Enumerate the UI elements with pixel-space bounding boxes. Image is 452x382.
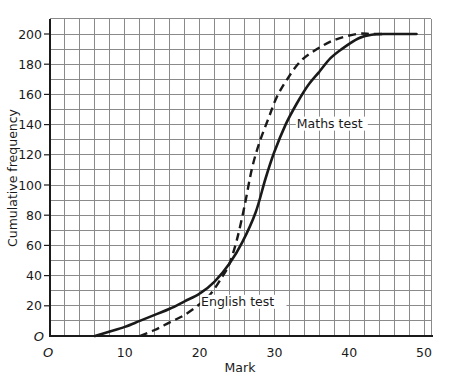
y-tick-label: 160 xyxy=(18,87,42,102)
x-tick-label: 30 xyxy=(266,345,282,360)
x-axis-title: Mark xyxy=(225,360,257,375)
maths-test-label: Maths test xyxy=(297,116,363,131)
axes xyxy=(49,19,433,337)
y-origin-label: O xyxy=(34,329,44,344)
y-tick-label: 80 xyxy=(26,208,42,223)
curve-labels: Maths test English test xyxy=(200,116,368,309)
y-tick-label: 120 xyxy=(18,147,42,162)
cumulative-frequency-chart: 204060801001201401601802001020304050 Mat… xyxy=(0,0,452,382)
x-origin-label: O xyxy=(43,345,53,360)
y-tick-label: 40 xyxy=(26,268,42,283)
y-tick-label: 100 xyxy=(18,178,42,193)
y-tick-label: 180 xyxy=(18,57,42,72)
x-tick-label: 40 xyxy=(341,345,357,360)
english-test-label: English test xyxy=(201,294,274,309)
grid xyxy=(50,19,431,336)
y-axis-title: Cumulative frequency xyxy=(5,108,20,247)
y-tick-label: 60 xyxy=(26,238,42,253)
y-tick-label: 20 xyxy=(26,298,42,313)
x-tick-label: 50 xyxy=(416,345,432,360)
x-tick-label: 10 xyxy=(117,345,133,360)
y-tick-label: 200 xyxy=(18,27,42,42)
y-tick-label: 140 xyxy=(18,117,42,132)
x-tick-label: 20 xyxy=(192,345,208,360)
